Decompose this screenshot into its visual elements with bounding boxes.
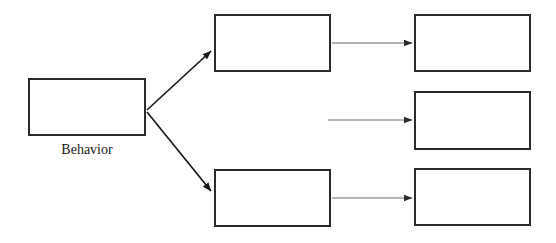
node-box-middle-bottom[interactable] <box>214 169 331 227</box>
node-box-right-bottom[interactable] <box>414 168 531 226</box>
connector-behavior-to-middle-top <box>147 51 211 110</box>
node-box-middle-top[interactable] <box>214 14 331 72</box>
node-label-behavior <box>30 80 144 134</box>
diagram-canvas: Behavior <box>0 0 556 243</box>
node-label-middle-bottom <box>216 171 329 225</box>
node-box-right-middle[interactable] <box>414 91 531 150</box>
node-box-behavior[interactable] <box>28 78 146 136</box>
node-label-right-bottom <box>416 170 529 224</box>
node-label-right-top <box>416 16 529 70</box>
connector-behavior-to-middle-bottom <box>147 112 211 191</box>
node-box-right-top[interactable] <box>414 14 531 72</box>
node-caption-behavior: Behavior <box>28 142 146 158</box>
node-label-right-middle <box>416 93 529 148</box>
node-label-middle-top <box>216 16 329 70</box>
